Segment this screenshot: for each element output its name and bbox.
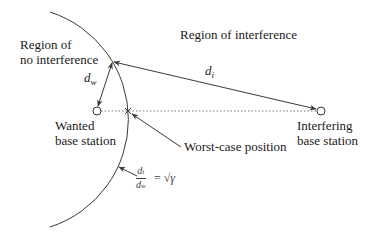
ratio-fraction: di dw — [136, 166, 146, 191]
region-interference-label: Region of interference — [180, 27, 297, 42]
ratio-rhs: = √γ — [154, 171, 175, 186]
wanted-line2: base station — [55, 133, 116, 148]
interfering-line2: base station — [297, 133, 358, 148]
ratio-sqrt-gamma: √γ — [164, 171, 175, 185]
region-no-interference-line2: no interference — [20, 52, 98, 67]
ratio-num-sub: i — [142, 168, 144, 176]
dw-arrow — [98, 63, 112, 106]
dw-label: dw — [84, 70, 97, 90]
ratio-denominator: dw — [136, 180, 146, 191]
worst-case-pointer — [132, 114, 181, 147]
dw-subscript: w — [91, 77, 97, 87]
ratio-den-sub: w — [141, 182, 146, 190]
region-no-interference-line1: Region of — [20, 37, 98, 52]
worst-case-label: Worst-case position — [184, 139, 287, 154]
ratio-pointer — [119, 167, 137, 176]
region-no-interference-label: Region of no interference — [20, 37, 98, 67]
ratio-numerator: di — [136, 166, 146, 177]
wanted-base-station-icon — [93, 107, 101, 115]
interfering-base-station-icon — [317, 107, 325, 115]
di-subscript: i — [212, 70, 215, 80]
ratio-equals: = — [154, 171, 161, 185]
di-label: di — [205, 63, 214, 83]
wanted-base-station-label: Wanted base station — [55, 118, 116, 148]
interfering-line1: Interfering — [297, 118, 358, 133]
wanted-line1: Wanted — [55, 118, 116, 133]
interfering-base-station-label: Interfering base station — [297, 118, 358, 148]
di-arrow — [114, 62, 316, 109]
